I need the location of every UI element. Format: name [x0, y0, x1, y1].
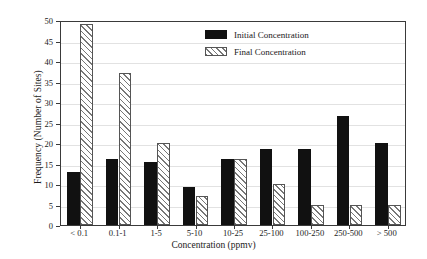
bar-final — [350, 205, 363, 226]
bar-initial — [260, 149, 273, 225]
y-tick-mark — [56, 103, 60, 104]
y-tick-label: 45 — [11, 37, 53, 47]
x-tick-label: > 500 — [359, 228, 415, 238]
bar-final — [119, 73, 132, 225]
y-tick-mark — [56, 21, 60, 22]
bar-initial — [221, 159, 234, 225]
y-tick-label: 10 — [11, 180, 53, 190]
y-tick-label: 30 — [11, 98, 53, 108]
y-tick-mark — [56, 62, 60, 63]
gridline — [61, 125, 405, 126]
bar-initial — [183, 187, 196, 225]
gridline — [61, 84, 405, 85]
y-tick-mark — [56, 206, 60, 207]
legend-label-final: Final Concentration — [234, 47, 306, 57]
bar-final — [234, 159, 247, 225]
y-tick-label: 0 — [11, 221, 53, 231]
y-tick-label: 25 — [11, 119, 53, 129]
y-tick-label: 20 — [11, 139, 53, 149]
hatched-swatch — [205, 47, 227, 56]
bar-initial — [144, 162, 157, 225]
y-tick-label: 40 — [11, 57, 53, 67]
bar-initial — [106, 159, 119, 225]
bar-initial — [375, 143, 388, 225]
y-tick-label: 15 — [11, 160, 53, 170]
bar-final — [80, 24, 93, 225]
y-tick-mark — [56, 226, 60, 227]
bar-chart-figure: Frequency (Number of Sites) 051015202530… — [0, 0, 427, 259]
bar-final — [311, 205, 324, 226]
gridline — [61, 145, 405, 146]
bar-initial — [337, 116, 350, 225]
bar-initial — [67, 172, 80, 225]
gridline — [61, 104, 405, 105]
y-tick-label: 50 — [11, 16, 53, 26]
solid-black-swatch — [205, 30, 227, 39]
y-tick-label: 35 — [11, 78, 53, 88]
bar-final — [273, 184, 286, 225]
gridline — [61, 63, 405, 64]
y-tick-mark — [56, 144, 60, 145]
bar-final — [157, 143, 170, 225]
legend-label-initial: Initial Concentration — [234, 30, 309, 40]
y-tick-mark — [56, 83, 60, 84]
y-tick-mark — [56, 124, 60, 125]
legend-item-initial: Initial Concentration — [205, 26, 309, 43]
chart-legend: Initial Concentration Final Concentratio… — [205, 26, 309, 60]
bar-final — [196, 196, 209, 225]
legend-item-final: Final Concentration — [205, 43, 309, 60]
x-axis-title: Concentration (ppmv) — [0, 240, 427, 250]
y-tick-mark — [56, 165, 60, 166]
bar-final — [388, 205, 401, 226]
y-tick-mark — [56, 185, 60, 186]
bar-initial — [298, 149, 311, 225]
y-tick-label: 5 — [11, 201, 53, 211]
y-tick-mark — [56, 42, 60, 43]
